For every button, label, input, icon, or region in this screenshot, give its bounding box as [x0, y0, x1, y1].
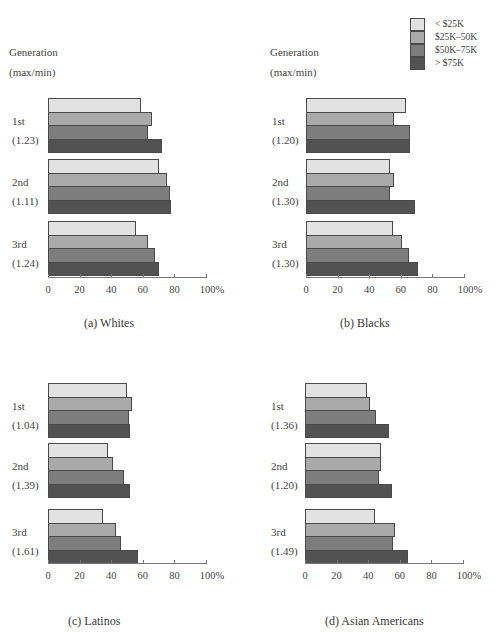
generation-name: 1st [12, 112, 39, 131]
x-tick-label: 60 [396, 284, 407, 295]
x-tick [463, 560, 464, 564]
x-tick [400, 560, 401, 564]
x-tick-label: 40 [363, 570, 374, 581]
header-line1: Generation [270, 42, 319, 62]
max-min-ratio: (1.24) [12, 254, 39, 273]
x-tick-label: 20 [332, 284, 343, 295]
max-min-ratio: (1.30) [272, 192, 299, 211]
bar-lt25k [48, 443, 108, 458]
header-line2: (max/min) [270, 62, 319, 82]
legend-swatch-50-75k [410, 44, 425, 57]
bar-25-50k [305, 523, 395, 538]
generation-label: 1st(1.23) [12, 112, 39, 150]
bar-25-50k [48, 397, 132, 412]
x-tick-label: 100% [457, 570, 482, 581]
bar-25-50k [305, 457, 381, 472]
bar-50-75k [305, 470, 379, 485]
x-tick [464, 274, 465, 278]
generation-name: 3rd [12, 235, 39, 254]
panel-caption: (a) Whites [84, 316, 134, 331]
bar-25-50k [48, 173, 167, 188]
x-tick [143, 274, 144, 278]
bar-25-50k [48, 235, 148, 250]
x-tick-label: 40 [364, 284, 375, 295]
bar-50-75k [48, 536, 121, 551]
x-axis [306, 277, 464, 278]
bar-gt75k [305, 550, 408, 565]
bar-gt75k [48, 484, 130, 499]
bar-50-75k [306, 186, 390, 201]
x-tick-label: 80 [169, 284, 180, 295]
bar-25-50k [48, 112, 152, 127]
x-tick-label: 20 [74, 570, 85, 581]
generation-label: 2nd(1.30) [272, 173, 299, 211]
panel-caption: (d) Asian Americans [325, 614, 424, 629]
legend-label-lt25k: < $25K [435, 18, 464, 31]
generation-label: 3rd(1.49) [271, 523, 298, 561]
generation-name: 1st [271, 397, 298, 416]
x-tick [48, 274, 49, 278]
generation-name: 2nd [12, 173, 38, 192]
generation-label: 3rd(1.30) [272, 235, 299, 273]
bar-50-75k [305, 536, 393, 551]
max-min-ratio: (1.30) [272, 254, 299, 273]
x-tick-label: 80 [169, 570, 180, 581]
generation-name: 2nd [12, 457, 39, 476]
bar-25-50k [306, 235, 402, 250]
bar-lt25k [48, 221, 136, 236]
generation-label: 1st(1.20) [272, 112, 299, 150]
header-line2: (max/min) [9, 62, 58, 82]
bar-50-75k [48, 186, 170, 201]
x-axis [305, 563, 463, 564]
bar-lt25k [305, 443, 381, 458]
x-tick-label: 80 [427, 284, 438, 295]
x-tick-label: 100% [458, 284, 483, 295]
legend-label-25-50k: $25K–50K [435, 31, 477, 44]
legend-swatch-gt75k [410, 57, 425, 70]
generation-name: 2nd [272, 173, 299, 192]
legend-label-50-75k: $50K–75K [435, 44, 477, 57]
bar-50-75k [305, 410, 376, 425]
x-axis [48, 563, 206, 564]
x-tick-label: 20 [331, 570, 342, 581]
x-tick-label: 0 [302, 570, 307, 581]
panel-caption: (b) Blacks [340, 316, 390, 331]
x-tick [174, 274, 175, 278]
x-tick-label: 20 [74, 284, 85, 295]
x-tick [143, 560, 144, 564]
x-tick-label: 60 [395, 570, 406, 581]
bar-gt75k [305, 484, 392, 499]
bar-lt25k [305, 509, 375, 524]
max-min-ratio: (1.36) [271, 416, 298, 435]
generation-label: 3rd(1.61) [12, 523, 39, 561]
generation-name: 3rd [12, 523, 39, 542]
x-tick-label: 40 [106, 284, 117, 295]
max-min-ratio: (1.20) [272, 131, 299, 150]
bar-25-50k [306, 112, 394, 127]
bar-50-75k [48, 125, 148, 140]
bar-lt25k [306, 98, 406, 113]
max-min-ratio: (1.20) [271, 476, 298, 495]
bar-gt75k [48, 139, 162, 154]
bar-gt75k [306, 200, 415, 215]
x-tick [305, 560, 306, 564]
bar-lt25k [306, 221, 393, 236]
legend-swatch-lt25k [410, 18, 425, 31]
bar-50-75k [48, 248, 155, 263]
x-tick-label: 60 [138, 570, 149, 581]
x-tick [369, 274, 370, 278]
x-tick [338, 274, 339, 278]
bar-gt75k [48, 424, 130, 439]
generation-name: 1st [12, 397, 39, 416]
x-tick-label: 0 [45, 570, 50, 581]
x-tick-label: 100% [200, 284, 225, 295]
generation-name: 2nd [271, 457, 298, 476]
bar-25-50k [48, 457, 113, 472]
bar-50-75k [48, 410, 129, 425]
x-tick-label: 40 [106, 570, 117, 581]
bar-gt75k [48, 550, 138, 565]
bar-25-50k [48, 523, 116, 538]
panel-caption: (c) Latinos [68, 614, 120, 629]
x-tick-label: 60 [138, 284, 149, 295]
x-tick-label: 80 [426, 570, 437, 581]
